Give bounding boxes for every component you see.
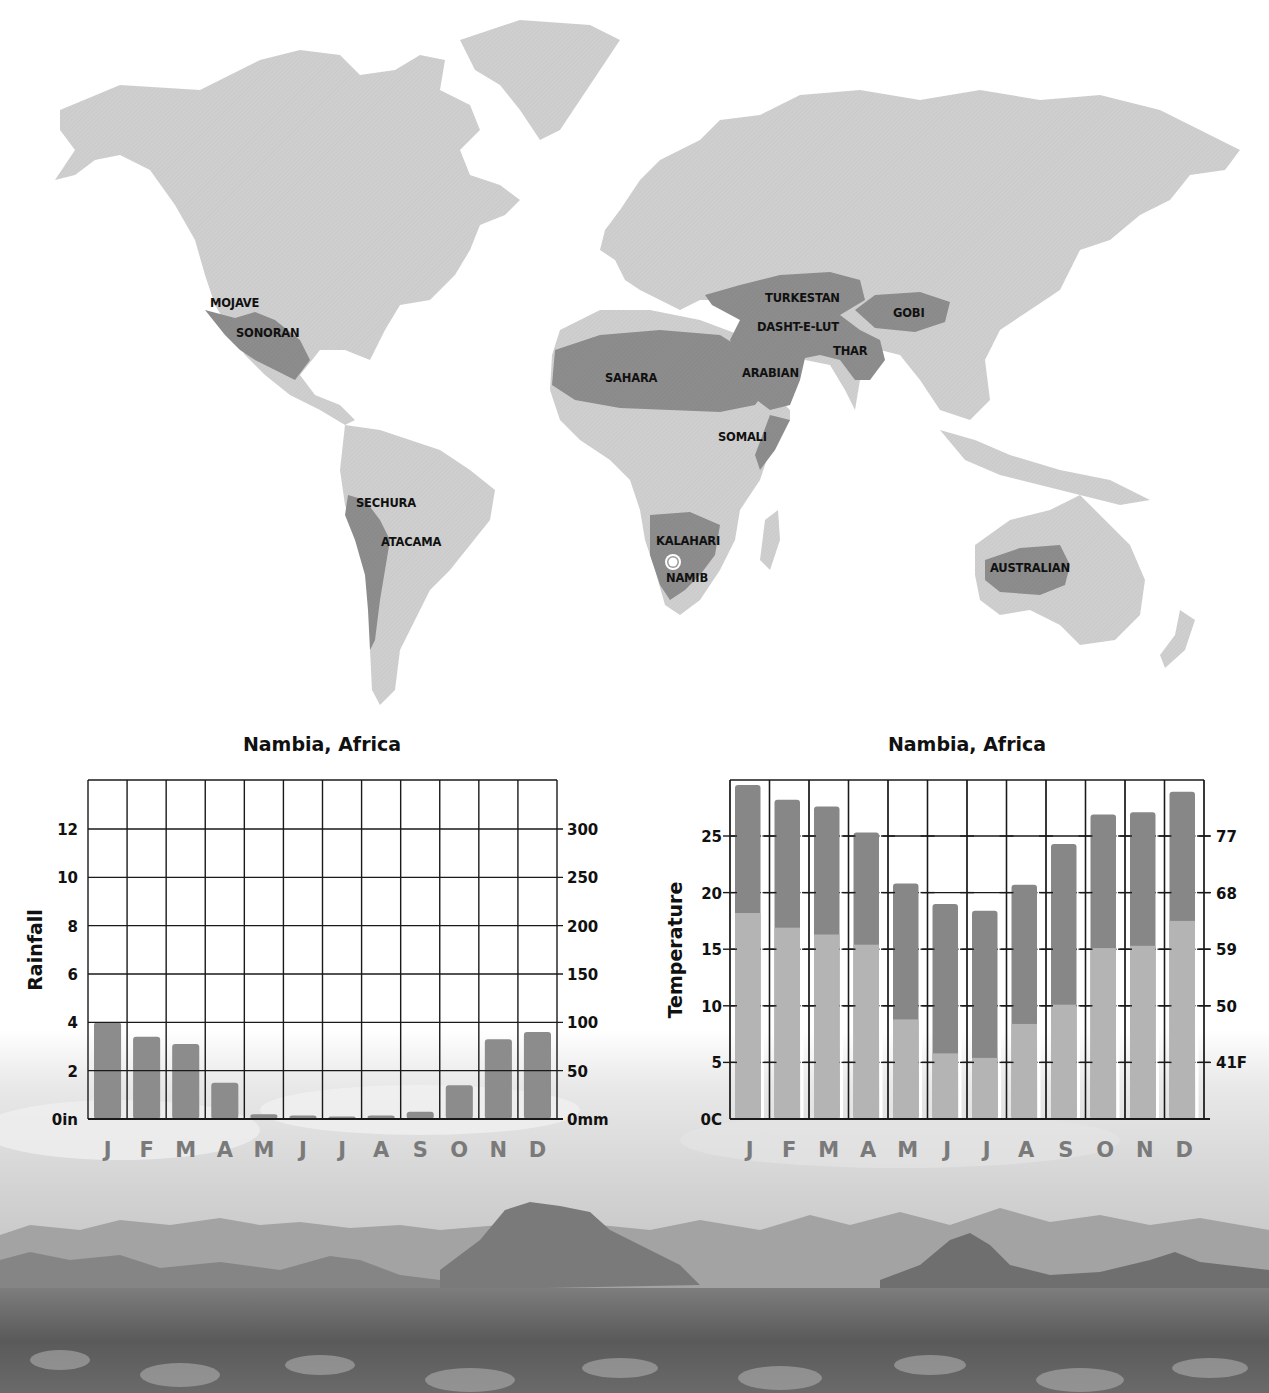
y-tick-right: 100 (567, 1014, 598, 1032)
temperature-low-bar (933, 1053, 959, 1119)
desert-label-arabian: ARABIAN (742, 366, 799, 380)
y-tick-right: 0mm (567, 1111, 609, 1129)
x-tick-month: M (818, 1138, 839, 1162)
temperature-low-bar (735, 913, 761, 1119)
y-tick-right: 41F (1216, 1054, 1247, 1072)
temperature-low-bar (972, 1058, 998, 1119)
x-tick-month: O (450, 1138, 468, 1162)
rainfall-bar (172, 1044, 199, 1119)
desert-label-sonoran: SONORAN (236, 326, 299, 340)
y-tick-left: 10 (701, 998, 722, 1016)
greenland (460, 20, 620, 140)
x-tick-month: O (1096, 1138, 1114, 1162)
desert-label-namib: NAMIB (666, 571, 708, 585)
rainfall-bar (485, 1039, 512, 1119)
x-tick-month: J (744, 1138, 754, 1162)
rainfall-bar (133, 1037, 160, 1119)
rainfall-bar (524, 1032, 551, 1119)
x-tick-month: D (529, 1138, 546, 1162)
rainfall-chart: Nambia, Africa 0in0mm2504100615082001025… (0, 720, 640, 1160)
y-tick-right: 250 (567, 869, 598, 887)
x-tick-month: J (941, 1138, 951, 1162)
y-tick-right: 200 (567, 918, 598, 936)
y-tick-left: 8 (68, 918, 78, 936)
y-tick-left: 6 (68, 966, 78, 984)
y-tick-right: 59 (1216, 941, 1237, 959)
world-desert-map: MOJAVESONORANTURKESTANGOBIDASHT-E-LUTTHA… (0, 0, 1269, 720)
desert-label-australian: AUSTRALIAN (990, 561, 1070, 575)
desert-label-thar: THAR (833, 344, 868, 358)
y-tick-left: 2 (68, 1063, 78, 1081)
y-tick-left: 10 (57, 869, 78, 887)
x-tick-month: J (102, 1138, 112, 1162)
y-tick-left: 20 (701, 885, 722, 903)
x-tick-month: F (782, 1138, 796, 1162)
desert-label-kalahari: KALAHARI (656, 534, 720, 548)
x-tick-month: S (413, 1138, 428, 1162)
madagascar (760, 510, 780, 570)
y-tick-right: 50 (567, 1063, 588, 1081)
chart-title: Nambia, Africa (888, 733, 1046, 755)
x-tick-month: F (139, 1138, 153, 1162)
temperature-low-bar (814, 934, 840, 1119)
new-zealand (1160, 610, 1195, 668)
desert-label-sahara: SAHARA (605, 371, 658, 385)
temperature-low-bar (775, 928, 801, 1119)
temperature-low-bar (1170, 921, 1196, 1119)
x-tick-month: A (373, 1138, 390, 1162)
y-axis-title: Rainfall (24, 909, 46, 991)
y-tick-right: 150 (567, 966, 598, 984)
rainfall-bar (446, 1085, 473, 1119)
desert-label-gobi: GOBI (893, 306, 924, 320)
y-tick-left: 12 (57, 821, 78, 839)
desert-label-dasht-e-lut: DASHT-E-LUT (757, 320, 839, 334)
x-tick-month: M (253, 1138, 274, 1162)
x-tick-month: J (336, 1138, 346, 1162)
y-tick-left: 0C (701, 1111, 722, 1129)
x-tick-month: A (217, 1138, 234, 1162)
x-tick-month: A (860, 1138, 877, 1162)
temperature-low-bar (1051, 1005, 1077, 1119)
y-tick-left: 5 (712, 1054, 722, 1072)
temperature-low-bar (1091, 948, 1117, 1119)
y-tick-right: 300 (567, 821, 598, 839)
rainfall-bar (211, 1083, 238, 1119)
southeast-asia-islands (940, 430, 1150, 505)
x-tick-month: A (1018, 1138, 1035, 1162)
x-tick-month: M (897, 1138, 918, 1162)
rainfall-bar (407, 1112, 434, 1119)
y-tick-left: 25 (701, 828, 722, 846)
x-tick-month: S (1058, 1138, 1073, 1162)
desert-label-atacama: ATACAMA (381, 535, 441, 549)
y-tick-left: 0in (52, 1111, 78, 1129)
x-tick-month: J (981, 1138, 991, 1162)
temperature-low-bar (1012, 1024, 1038, 1119)
x-tick-month: N (1136, 1138, 1154, 1162)
desert-label-somali: SOMALI (718, 430, 767, 444)
desert-label-turkestan: TURKESTAN (765, 291, 840, 305)
desert-label-mojave: MOJAVE (210, 296, 260, 310)
temperature-low-bar (893, 1019, 919, 1119)
y-tick-right: 50 (1216, 998, 1237, 1016)
x-tick-month: D (1176, 1138, 1193, 1162)
y-tick-left: 15 (701, 941, 722, 959)
y-tick-right: 77 (1216, 828, 1237, 846)
y-axis-title: Temperature (664, 882, 686, 1019)
x-tick-month: J (297, 1138, 307, 1162)
chart-title: Nambia, Africa (243, 733, 401, 755)
location-marker (665, 554, 681, 570)
temperature-chart: Nambia, Africa 0C51015202541F50596877Tem… (640, 720, 1269, 1160)
temperature-low-bar (854, 945, 880, 1119)
x-tick-month: N (490, 1138, 508, 1162)
desert-label-sechura: SECHURA (356, 496, 416, 510)
y-tick-left: 4 (68, 1014, 78, 1032)
temperature-low-bar (1130, 946, 1156, 1119)
y-tick-right: 68 (1216, 885, 1237, 903)
x-tick-month: M (175, 1138, 196, 1162)
